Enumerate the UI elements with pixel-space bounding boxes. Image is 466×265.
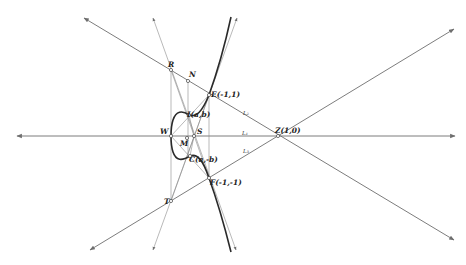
point-label-E: E(-1,1) (210, 90, 240, 99)
point-label-Z: Z(1,0) (274, 126, 301, 135)
point-label-S: S (197, 127, 203, 136)
point-N (186, 79, 189, 82)
line-label: L₃ (242, 148, 249, 154)
line-L2 (84, 18, 454, 240)
point-label-C: C(a,-b) (189, 155, 218, 164)
diagram-canvas: WSMZ(1,0)RNE(-1,1)F(-1,-1)TI(a,b)C(a,-b)… (0, 0, 466, 265)
point-label-F: F(-1,-1) (209, 178, 242, 187)
point-label-R: R (167, 60, 174, 69)
point-T (169, 199, 172, 202)
point-label-N: N (188, 70, 197, 79)
points: WSMZ(1,0)RNE(-1,1)F(-1,-1)TI(a,b)C(a,-b) (160, 60, 301, 206)
point-label-M: M (179, 139, 189, 148)
point-label-I: I(a,b) (186, 110, 211, 119)
line-label: L₁ (241, 130, 248, 136)
line-L3 (90, 29, 454, 250)
line-label: L₂ (242, 110, 249, 116)
point-S (192, 134, 195, 137)
point-label-W: W (160, 127, 170, 136)
point-W (169, 134, 172, 137)
arrow-lines (17, 18, 455, 250)
